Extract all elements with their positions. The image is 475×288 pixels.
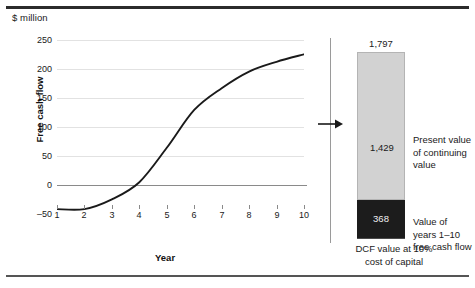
x-tick-7: 7 (214, 210, 230, 220)
x-tick-8: 8 (241, 210, 257, 220)
bar-segment-years-free-cash-flow[interactable]: 368 (357, 200, 405, 238)
x-tick-mark-3 (112, 205, 113, 209)
bar-caption-line-1: DCF value at 10% (335, 243, 453, 256)
x-tick-mark-6 (194, 205, 195, 209)
bottom-rule (6, 275, 469, 277)
legend-continuing-line-2: of continuing (413, 147, 475, 160)
x-tick-2: 2 (76, 210, 92, 220)
x-tick-9: 9 (269, 210, 285, 220)
x-axis: 1 2 3 4 5 6 7 8 9 10 (57, 205, 307, 227)
x-tick-4: 4 (131, 210, 147, 220)
x-tick-mark-4 (139, 205, 140, 209)
top-rule (6, 6, 469, 9)
bar-segment-continuing-value[interactable]: 1,429 (357, 52, 405, 200)
x-tick-3: 3 (104, 210, 120, 220)
legend-years-line-1: Value of (413, 216, 475, 229)
y-tick-250: 250 (37, 35, 52, 45)
legend-continuing-value: Present value of continuing value (413, 134, 475, 172)
y-tick-0: 0 (47, 180, 52, 190)
x-tick-mark-5 (167, 205, 168, 209)
x-tick-mark-1 (57, 205, 58, 209)
bar-caption: DCF value at 10% cost of capital (335, 243, 453, 268)
x-tick-1: 1 (49, 210, 65, 220)
figure-container: $ million 250 200 150 100 50 0 –50 Free … (0, 0, 475, 288)
bar-caption-line-2: cost of capital (335, 256, 453, 269)
x-tick-mark-9 (277, 205, 278, 209)
x-axis-title: Year (155, 252, 175, 263)
bar-segment-years-value-label: 368 (357, 213, 405, 224)
x-tick-mark-10 (304, 205, 305, 209)
panel-divider (330, 38, 331, 243)
y-axis-title: Free cash flow (34, 65, 45, 155)
x-tick-mark-2 (84, 205, 85, 209)
x-tick-mark-7 (222, 205, 223, 209)
line-plot-area (57, 40, 304, 212)
arrow-right-icon (318, 118, 344, 130)
x-tick-10: 10 (296, 210, 312, 220)
free-cash-flow-curve (57, 40, 304, 212)
unit-label: $ million (12, 12, 48, 23)
legend-continuing-line-1: Present value (413, 134, 475, 147)
x-tick-mark-8 (249, 205, 250, 209)
legend-continuing-line-3: value (413, 159, 475, 172)
dcf-value-bar-chart: 1,797 1,429 368 Present value of continu… (357, 38, 475, 278)
x-tick-5: 5 (159, 210, 175, 220)
bar-segment-continuing-value-label: 1,429 (358, 142, 406, 153)
stacked-bar: 1,429 368 (357, 52, 405, 239)
bar-total-label: 1,797 (357, 38, 405, 49)
x-tick-6: 6 (186, 210, 202, 220)
legend-years-line-2: years 1–10 (413, 229, 475, 242)
